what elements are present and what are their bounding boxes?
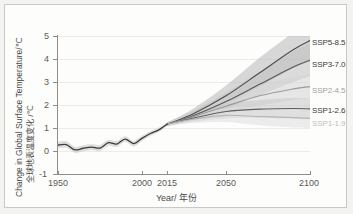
y-tick-0 <box>53 151 58 152</box>
y-tick-label-5: 5 <box>23 32 49 41</box>
band-historical <box>58 122 167 153</box>
x-tick-2100 <box>310 171 311 175</box>
x-tick-1950 <box>58 171 59 175</box>
y-tick-label-4: 4 <box>23 55 49 64</box>
series-label-ssp1-2-6: SSP1-2.6 <box>312 106 345 115</box>
x-tick-label-2100: 2100 <box>289 178 329 188</box>
x-axis-line <box>57 174 311 175</box>
x-tick-label-1950: 1950 <box>38 178 78 188</box>
y-tick-5 <box>53 36 58 37</box>
x-axis-title: Year/ 年份 <box>5 191 348 204</box>
y-tick-2 <box>53 105 58 106</box>
series-label-ssp1-1-9: SSP1-1.9 <box>312 119 345 128</box>
figure-panel: Change in Global Surface Temperature/℃ 全… <box>4 4 347 208</box>
series-label-ssp3-7-0: SSP3-7.0 <box>312 60 345 69</box>
y-tick-label-3: 3 <box>23 78 49 87</box>
y-tick-label-2: 2 <box>23 101 49 110</box>
x-tick-2050 <box>226 171 227 175</box>
series-label-ssp2-4-5: SSP2-4.5 <box>312 86 345 95</box>
y-tick-4 <box>53 59 58 60</box>
chart-curves <box>58 36 310 174</box>
x-tick-2015 <box>167 171 168 175</box>
y-tick-label-0: 0 <box>23 147 49 156</box>
plot-area <box>58 36 310 174</box>
x-tick-label-2015: 2015 <box>147 178 187 188</box>
y-tick-1 <box>53 128 58 129</box>
y-tick-label-1: 1 <box>23 124 49 133</box>
series-label-ssp5-8-5: SSP5-8.5 <box>312 38 345 47</box>
y-tick-3 <box>53 82 58 83</box>
x-tick-label-2050: 2050 <box>206 178 246 188</box>
x-tick-2000 <box>142 171 143 175</box>
